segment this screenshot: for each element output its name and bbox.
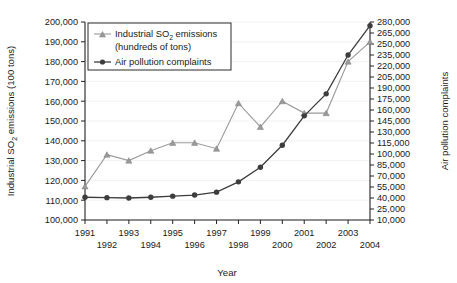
right-tick-label: 250,000 xyxy=(377,39,410,49)
right-tick-label: 10,000 xyxy=(377,215,405,225)
right-tick-label: 265,000 xyxy=(377,28,410,38)
right-tick-label: 220,000 xyxy=(377,61,410,71)
left-tick-label: 150,000 xyxy=(45,116,78,126)
data-point-marker xyxy=(280,143,285,148)
legend-marker-circle-icon xyxy=(100,59,105,64)
right-tick-label: 25,000 xyxy=(377,204,405,214)
right-tick-label: 280,000 xyxy=(377,17,410,27)
x-tick-label: 1992 xyxy=(97,240,117,250)
legend-label-so2: Industrial SO2 emissions xyxy=(115,28,218,41)
data-point-marker xyxy=(126,195,131,200)
left-tick-label: 120,000 xyxy=(45,176,78,186)
right-tick-label: 175,000 xyxy=(377,94,410,104)
right-tick-label: 235,000 xyxy=(377,50,410,60)
right-tick-label: 205,000 xyxy=(377,72,410,82)
y-axis-title-main: Industrial SO xyxy=(5,141,16,196)
x-tick-label: 2000 xyxy=(272,240,292,250)
x-tick-label: 1991 xyxy=(75,228,95,238)
left-tick-label: 110,000 xyxy=(45,196,78,206)
x-tick-label: 1997 xyxy=(206,228,226,238)
right-tick-label: 100,000 xyxy=(377,149,410,159)
x-tick-label: 1999 xyxy=(250,228,270,238)
right-tick-label: 145,000 xyxy=(377,116,410,126)
right-tick-label: 85,000 xyxy=(377,160,405,170)
right-tick-label: 190,000 xyxy=(377,83,410,93)
left-tick-label: 130,000 xyxy=(45,156,78,166)
right-tick-label: 40,000 xyxy=(377,193,405,203)
left-tick-label: 140,000 xyxy=(45,136,78,146)
x-tick-label: 1996 xyxy=(184,240,204,250)
x-tick-label: 2001 xyxy=(294,228,314,238)
left-tick-label: 170,000 xyxy=(45,77,78,87)
x-tick-label: 2002 xyxy=(316,240,336,250)
chart-figure: 100,000110,000120,000130,000140,000150,0… xyxy=(0,0,457,283)
right-tick-label: 55,000 xyxy=(377,182,405,192)
data-point-marker xyxy=(236,179,241,184)
data-point-marker xyxy=(258,165,263,170)
legend-so2-tail: emissions xyxy=(173,28,218,39)
y2-axis-title-text: Air pollution complaints xyxy=(439,71,450,170)
left-tick-label: 180,000 xyxy=(45,57,78,67)
data-point-marker xyxy=(148,195,153,200)
left-tick-label: 100,000 xyxy=(45,215,78,225)
right-tick-label: 160,000 xyxy=(377,105,410,115)
legend-label-complaints: Air pollution complaints xyxy=(115,56,212,67)
x-axis-title: Year xyxy=(217,267,237,278)
x-tick-label: 1994 xyxy=(141,240,161,250)
x-tick-label: 1993 xyxy=(119,228,139,238)
left-tick-label: 190,000 xyxy=(45,37,78,47)
legend-so2-main: Industrial SO xyxy=(115,28,169,39)
legend-label-so2-line2: (hundreds of tons) xyxy=(115,41,191,52)
svg-text:Industrial SO2 emissions (100: Industrial SO2 emissions (100 tons) xyxy=(5,46,18,197)
data-point-marker xyxy=(104,195,109,200)
right-tick-label: 130,000 xyxy=(377,127,410,137)
left-tick-label: 160,000 xyxy=(45,97,78,107)
x-tick-label: 2004 xyxy=(360,240,380,250)
x-tick-label: 1995 xyxy=(162,228,182,238)
right-tick-label: 70,000 xyxy=(377,171,405,181)
x-tick-label: 1998 xyxy=(228,240,248,250)
data-point-marker xyxy=(214,189,219,194)
chart-legend: Industrial SO2 emissions (hundreds of to… xyxy=(88,23,231,70)
x-tick-label: 2003 xyxy=(338,228,358,238)
data-point-marker xyxy=(302,113,307,118)
data-point-marker xyxy=(170,193,175,198)
y-axis-title-tail: emissions (100 tons) xyxy=(5,46,16,137)
left-tick-label: 200,000 xyxy=(45,17,78,27)
dual-axis-line-chart: 100,000110,000120,000130,000140,000150,0… xyxy=(0,0,457,283)
y-axis-title: Industrial SO2 emissions (100 tons) xyxy=(5,46,18,197)
y2-axis-title: Air pollution complaints xyxy=(439,71,450,170)
data-point-marker xyxy=(192,192,197,197)
data-point-marker xyxy=(345,52,350,57)
data-point-marker xyxy=(323,91,328,96)
data-point-marker xyxy=(367,23,372,28)
right-tick-label: 115,000 xyxy=(377,138,410,148)
data-point-marker xyxy=(82,195,87,200)
